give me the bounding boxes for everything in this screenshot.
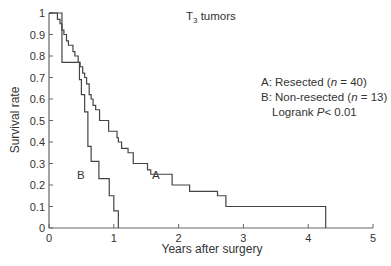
y-tick-label: 0.4 [30, 136, 45, 148]
y-tick-label: 0.1 [30, 201, 45, 213]
x-tick-label: 4 [305, 232, 311, 244]
chart-title: T3 tumors [186, 10, 236, 25]
y-tick-label: 0.7 [30, 72, 45, 84]
y-tick-label: 0.2 [30, 179, 45, 191]
legend-entry-a: A: Resected (n = 40) [261, 76, 367, 88]
x-ticks: 012345 [46, 224, 376, 244]
legend-entry-b: B: Non-resected (n = 13) [261, 91, 387, 103]
x-tick-label: 1 [111, 232, 117, 244]
x-tick-label: 0 [46, 232, 52, 244]
logrank-stat: Logrank P< 0.01 [272, 106, 357, 118]
y-axis-title: Survival rate [8, 86, 22, 153]
y-tick-label: 0.5 [30, 115, 45, 127]
x-axis-title: Years after surgery [162, 242, 263, 256]
y-tick-label: 0.8 [30, 50, 45, 62]
y-tick-label: 0.9 [30, 29, 45, 41]
x-tick-label: 5 [370, 232, 376, 244]
y-tick-label: 0.3 [30, 158, 45, 170]
y-tick-label: 0 [39, 222, 45, 234]
y-tick-label: 1 [39, 7, 45, 19]
survival-curves [49, 13, 326, 228]
legend: A: Resected (n = 40) B: Non-resected (n … [261, 76, 387, 118]
curve-a-label: A [152, 169, 160, 181]
axes [49, 13, 373, 228]
curve-a [49, 13, 326, 228]
curve-b-label: B [77, 169, 85, 181]
survival-chart: 012345 00.10.20.30.40.50.60.70.80.91 T3 … [0, 0, 391, 266]
y-tick-label: 0.6 [30, 93, 45, 105]
